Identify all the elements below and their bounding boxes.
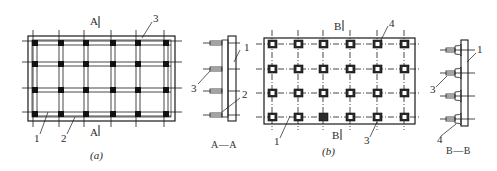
panel-a-drawing bbox=[22, 16, 182, 136]
caption-b: (b) bbox=[322, 146, 335, 157]
section-title-bb: B—B bbox=[446, 146, 471, 156]
caption-a: (a) bbox=[90, 150, 103, 161]
diagram-canvas bbox=[0, 0, 497, 171]
section-aa-drawing bbox=[198, 36, 240, 121]
callout-b-4: 4 bbox=[389, 18, 395, 29]
section-mark-a-bottom: A bbox=[90, 127, 98, 138]
callout-b-1: 1 bbox=[274, 136, 280, 147]
callout-bb-4: 4 bbox=[437, 134, 443, 145]
section-mark-b-bottom: B bbox=[332, 130, 339, 141]
callout-aa-2: 2 bbox=[242, 89, 248, 100]
callout-aa-3: 3 bbox=[191, 83, 197, 94]
callout-b-3: 3 bbox=[364, 135, 370, 146]
callout-a-1: 1 bbox=[34, 133, 40, 144]
section-mark-b-top: B bbox=[334, 21, 341, 32]
callout-a-3: 3 bbox=[153, 13, 159, 24]
section-title-aa: A—A bbox=[211, 140, 237, 150]
section-bb-drawing bbox=[436, 40, 476, 136]
callout-bb-1: 1 bbox=[477, 44, 483, 55]
callout-a-2: 2 bbox=[61, 133, 67, 144]
callout-aa-1: 1 bbox=[244, 42, 250, 53]
section-mark-a-top: A bbox=[90, 16, 98, 27]
panel-b-drawing bbox=[256, 20, 420, 140]
callout-bb-3: 3 bbox=[430, 84, 436, 95]
